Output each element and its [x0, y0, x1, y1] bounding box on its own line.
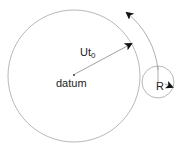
tool-radius-label: R	[156, 81, 164, 92]
datum-point	[73, 74, 75, 76]
diagram-canvas	[0, 0, 185, 147]
radius-label: Ut0	[80, 47, 95, 58]
tool-radius-arrow	[165, 84, 172, 87]
datum-label: datum	[56, 78, 87, 89]
radius-label-main: Ut	[80, 46, 91, 58]
offset-arc-arrow	[127, 13, 158, 70]
radius-label-subscript: 0	[91, 51, 95, 60]
